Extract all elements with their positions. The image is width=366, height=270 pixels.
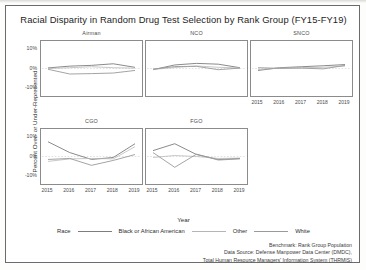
panel-cgo[interactable] bbox=[40, 128, 143, 185]
legend-swatch-other bbox=[192, 229, 226, 233]
y-tick-label: -10% bbox=[19, 84, 37, 90]
x-axis-title: Year bbox=[6, 216, 361, 223]
series-line-black-or-african-american bbox=[153, 144, 240, 160]
y-tick-label: 10% bbox=[19, 45, 37, 51]
legend-label-other: Other bbox=[233, 228, 248, 234]
legend-swatch-black-or-african-american bbox=[78, 229, 112, 233]
series-line-white bbox=[48, 69, 135, 74]
chart-frame: Racial Disparity in Random Drug Test Sel… bbox=[5, 5, 360, 263]
x-tick-label: 2017 bbox=[187, 187, 205, 193]
series-line-black-or-african-american bbox=[48, 64, 135, 68]
x-tick-label: 2019 bbox=[230, 187, 248, 193]
chart-screenshot: Racial Disparity in Random Drug Test Sel… bbox=[0, 0, 366, 270]
y-axis-title: Percent Over- or Under-Represented bbox=[31, 62, 38, 182]
y-tick-label: 0% bbox=[19, 65, 37, 71]
panel-title-airman: Airman bbox=[40, 30, 143, 36]
panel-fgo[interactable] bbox=[145, 128, 248, 185]
panel-nco[interactable] bbox=[145, 40, 248, 97]
panel-title-snco: SNCO bbox=[250, 30, 353, 36]
x-tick-label: 2016 bbox=[165, 187, 183, 193]
legend-title: Race bbox=[57, 228, 71, 234]
y-tick-label: -10% bbox=[19, 172, 37, 178]
x-tick-label: 2019 bbox=[335, 99, 353, 105]
legend-swatch-white bbox=[254, 229, 288, 233]
footnote-line-1: Benchmark: Rank Group Population bbox=[102, 242, 352, 249]
x-tick-label: 2017 bbox=[292, 99, 310, 105]
y-tick-label: 10% bbox=[19, 133, 37, 139]
footnote-line-3: Total Human Resource Managers' Informati… bbox=[102, 257, 352, 264]
plot-area-airman bbox=[41, 41, 142, 96]
top-edge-divider bbox=[0, 0, 366, 3]
plot-area-snco bbox=[251, 41, 352, 96]
footnote: Benchmark: Rank Group Population Data So… bbox=[102, 242, 352, 264]
panel-title-fgo: FGO bbox=[145, 118, 248, 124]
x-tick-label: 2015 bbox=[143, 187, 161, 193]
plot-area-cgo bbox=[41, 129, 142, 184]
x-tick-label: 2015 bbox=[38, 187, 56, 193]
x-tick-label: 2018 bbox=[103, 187, 121, 193]
legend: Race Black or African American Other Whi… bbox=[6, 228, 361, 234]
x-tick-label: 2015 bbox=[248, 99, 266, 105]
x-tick-label: 2019 bbox=[125, 187, 143, 193]
plot-area-fgo bbox=[146, 129, 247, 184]
x-tick-label: 2018 bbox=[208, 187, 226, 193]
panel-airman[interactable] bbox=[40, 40, 143, 97]
series-line-other bbox=[153, 156, 240, 159]
panel-title-nco: NCO bbox=[145, 30, 248, 36]
panel-title-cgo: CGO bbox=[40, 118, 143, 124]
x-tick-label: 2016 bbox=[270, 99, 288, 105]
x-tick-label: 2017 bbox=[82, 187, 100, 193]
panel-snco[interactable] bbox=[250, 40, 353, 97]
legend-label-black-or-african-american: Black or African American bbox=[119, 228, 185, 234]
x-tick-label: 2016 bbox=[60, 187, 78, 193]
x-tick-label: 2018 bbox=[313, 99, 331, 105]
legend-label-white: White bbox=[295, 228, 310, 234]
y-tick-label: 0% bbox=[19, 153, 37, 159]
plot-area-nco bbox=[146, 41, 247, 96]
footnote-line-2: Data Source: Defense Manpower Data Cente… bbox=[102, 249, 352, 256]
page-title: Racial Disparity in Random Drug Test Sel… bbox=[6, 14, 361, 25]
